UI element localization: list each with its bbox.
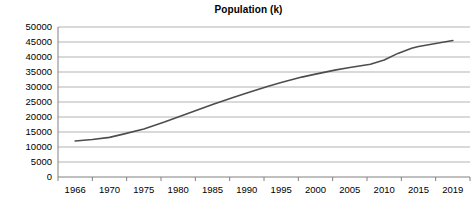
- y-axis-tick-label: 0: [0, 172, 52, 182]
- x-axis-tick-label: 2015: [401, 185, 435, 195]
- population-line-chart: Population (k) 5000045000400003500030000…: [0, 0, 475, 204]
- x-axis-tick-label: 2005: [333, 185, 367, 195]
- x-axis-tick-label: 1975: [127, 185, 161, 195]
- x-axis-tick-label: 1990: [230, 185, 264, 195]
- y-axis-tick-label: 30000: [0, 82, 52, 92]
- plot-area: [0, 0, 475, 204]
- x-axis-tick-label: 2010: [367, 185, 401, 195]
- y-axis-tick-label: 45000: [0, 37, 52, 47]
- x-axis-tick-label: 2019: [436, 185, 470, 195]
- y-axis-tick-label: 5000: [0, 157, 52, 167]
- x-axis-tick-label: 2000: [298, 185, 332, 195]
- y-axis-tick-label: 15000: [0, 127, 52, 137]
- data-series-line: [75, 41, 453, 142]
- y-axis-tick-label: 50000: [0, 22, 52, 32]
- x-axis-tick-label: 1980: [161, 185, 195, 195]
- x-axis-tick-label: 1966: [58, 185, 92, 195]
- y-axis-tick-label: 40000: [0, 52, 52, 62]
- y-axis-tick-label: 25000: [0, 97, 52, 107]
- x-axis-tick-label: 1985: [195, 185, 229, 195]
- x-axis-tick-label: 1970: [92, 185, 126, 195]
- x-axis-tick-label: 1995: [264, 185, 298, 195]
- y-axis-tick-label: 10000: [0, 142, 52, 152]
- y-axis-tick-label: 20000: [0, 112, 52, 122]
- y-axis-tick-label: 35000: [0, 67, 52, 77]
- x-axis-ticks: [58, 177, 470, 181]
